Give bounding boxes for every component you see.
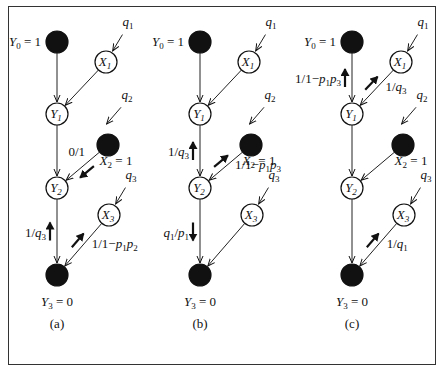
input-arrow-q3 [116, 188, 126, 204]
svg-text:1/q3​: 1/q3​ [168, 144, 190, 161]
input-arrow-q2 [107, 107, 121, 124]
svg-text:q2​: q2​ [417, 87, 428, 104]
message-arrow [367, 234, 379, 248]
svg-text:Y3​ = 0: Y3​ = 0 [336, 294, 368, 311]
edge-X1-Y1 [65, 70, 98, 105]
node-Y3 [189, 264, 211, 286]
edge-X1-Y1 [208, 70, 241, 105]
svg-text:Y3​ = 0: Y3​ = 0 [184, 294, 216, 311]
panel-caption: (a) [50, 316, 64, 331]
input-arrow-q2 [402, 107, 416, 124]
message-arrow [365, 77, 377, 90]
svg-text:Y3​ = 0: Y3​ = 0 [41, 294, 73, 311]
panel-a: q1​q2​q3​Y1​Y2​X1​X3​Y0​ = 1X2​ = 1Y3​ =… [9, 14, 138, 331]
svg-text:X2​ = 1: X2​ = 1 [99, 153, 133, 170]
node-Y3 [341, 264, 363, 286]
svg-text:q2​: q2​ [122, 87, 133, 104]
input-arrow-q1 [408, 35, 418, 51]
input-arrow-q1 [113, 35, 123, 51]
message-arrow [72, 234, 84, 248]
svg-text:Y0​ = 1: Y0​ = 1 [9, 34, 41, 51]
svg-text:Y0​ = 1: Y0​ = 1 [152, 34, 184, 51]
message-arrow [214, 155, 228, 167]
svg-text:X2​ = 1: X2​ = 1 [394, 153, 428, 170]
svg-text:1/1−p1​p2​: 1/1−p1​p2​ [92, 236, 138, 253]
panel-caption: (c) [345, 316, 359, 331]
panel-c: q1​q2​q3​Y1​Y2​X1​X3​Y0​ = 1X2​ = 1Y3​ =… [295, 14, 432, 331]
svg-text:0/1: 0/1 [68, 144, 85, 159]
svg-text:q3​: q3​ [421, 167, 433, 184]
node-Y0 [46, 31, 68, 53]
input-arrow-q1 [256, 35, 266, 51]
svg-text:1/q3​: 1/q3​ [385, 79, 407, 96]
svg-text:1/1−p1​p3​: 1/1−p1​p3​ [235, 157, 281, 174]
input-arrow-q3 [259, 188, 269, 204]
svg-text:q2​: q2​ [265, 87, 276, 104]
svg-text:q1​/p1​: q1​/p1​ [163, 225, 189, 242]
svg-text:q1​: q1​ [123, 14, 134, 31]
node-Y0 [189, 31, 211, 53]
panel-caption: (b) [192, 316, 207, 331]
input-arrow-q2 [250, 107, 264, 124]
svg-text:q1​: q1​ [266, 14, 277, 31]
bayesian-network-diagram: q1​q2​q3​Y1​Y2​X1​X3​Y0​ = 1X2​ = 1Y3​ =… [0, 0, 443, 374]
node-Y0 [341, 31, 363, 53]
svg-text:1/q1​: 1/q1​ [387, 236, 408, 253]
node-Y3 [46, 264, 68, 286]
svg-text:Y0​ = 1: Y0​ = 1 [304, 34, 336, 51]
svg-text:1/1−p1​p3​: 1/1−p1​p3​ [295, 71, 341, 88]
message-arrow [80, 166, 94, 178]
panel-b: q1​q2​q3​Y1​Y2​X1​X3​Y0​ = 1X2​ = 1Y3​ =… [152, 14, 282, 331]
svg-text:1/q3​: 1/q3​ [25, 225, 47, 242]
input-arrow-q3 [411, 188, 421, 204]
svg-text:q3​: q3​ [126, 167, 138, 184]
svg-text:q1​: q1​ [418, 14, 429, 31]
edge-X2-Y2 [361, 152, 394, 180]
edge-X3-Y3 [208, 223, 245, 266]
